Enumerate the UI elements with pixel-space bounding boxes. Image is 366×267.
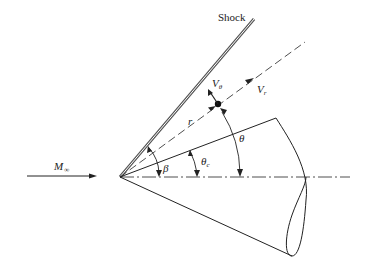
vr-vector (245, 78, 254, 84)
freestream-label: M∞ (53, 160, 69, 174)
shock-line (120, 19, 254, 177)
theta-label: θ (239, 132, 245, 144)
theta-c-label: θc (201, 155, 210, 169)
r-label: r (188, 115, 193, 127)
vr-label: Vr (257, 83, 267, 97)
shock-label: Shock (218, 11, 246, 23)
vtheta-label: Vθ (212, 77, 223, 91)
vtheta-vector (208, 89, 218, 104)
freestream-arrow (27, 174, 97, 179)
conical-flow-diagram: M∞ Shock r Vr Vθ θ θc β (0, 0, 366, 267)
cone-base (276, 118, 307, 256)
beta-label: β (162, 162, 169, 174)
cone-lower-edge (120, 177, 292, 256)
theta-c-arc (188, 150, 200, 177)
